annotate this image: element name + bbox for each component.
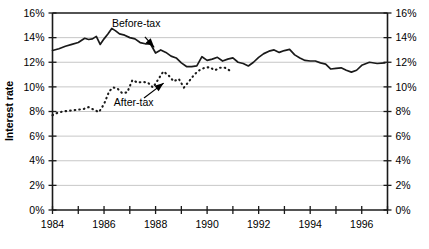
y-axis-left-tick-label: 2% [29,179,44,191]
y-axis-right-tick-label: 6% [396,130,411,142]
y-axis-left-tick-label: 16% [23,7,44,19]
y-axis-left-tick-label: 0% [29,204,44,216]
y-axis-right-tick-label: 16% [396,7,417,19]
interest-rate-line-chart: 0%2%4%6%8%10%12%14%16% 0%2%4%6%8%10%12%1… [0,0,429,249]
y-axis-right-tick-label: 10% [396,81,417,93]
y-axis-left-tick-label: 8% [29,105,44,117]
y-axis-left-tick-label: 6% [29,130,44,142]
series-annotation-label: Before-tax [112,17,161,29]
y-axis-title: Interest rate [3,81,15,141]
x-axis-tick-label: 1996 [350,218,374,230]
chart-canvas: 0%2%4%6%8%10%12%14%16% 0%2%4%6%8%10%12%1… [0,0,429,249]
series-annotation-label: After-tax [114,96,154,108]
y-axis-left-tick-label: 12% [23,56,44,68]
y-axis-left-tick-label: 14% [23,31,44,43]
x-axis-tick-label: 1988 [144,218,168,230]
x-axis-tick-label: 1984 [41,218,65,230]
y-axis-right-tick-label: 2% [396,179,411,191]
y-axis-right-tick-label: 4% [396,154,411,166]
x-axis-tick-label: 1990 [195,218,219,230]
y-axis-right-tick-label: 0% [396,204,411,216]
y-axis-right-tick-label: 12% [396,56,417,68]
y-axis-left-tick-label: 4% [29,154,44,166]
x-axis-tick-label: 1994 [299,218,323,230]
y-axis-right-tick-label: 14% [396,31,417,43]
x-axis-tick-label: 1992 [247,218,271,230]
x-axis-tick-label: 1986 [92,218,116,230]
y-axis-left-tick-label: 10% [23,81,44,93]
y-axis-right-tick-label: 8% [396,105,411,117]
